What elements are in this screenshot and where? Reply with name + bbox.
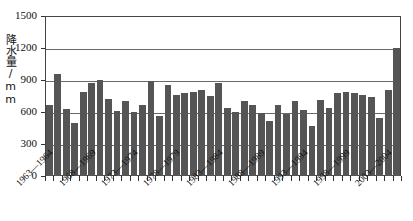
bar — [173, 95, 180, 176]
bar — [258, 113, 265, 176]
y-tick-label-900: 900 — [0, 74, 37, 85]
bar — [266, 121, 273, 176]
bar — [97, 80, 104, 176]
bar — [300, 110, 307, 176]
bar — [105, 99, 112, 176]
bar — [317, 100, 324, 176]
bar — [131, 112, 138, 176]
bar — [46, 105, 53, 176]
bar — [63, 109, 70, 176]
bar — [393, 48, 400, 176]
y-tick-label-600: 600 — [0, 106, 37, 117]
y-axis-ticks: 030060090012001500 — [0, 0, 45, 177]
y-tick-label-1200: 1200 — [0, 42, 37, 53]
y-tick-label-1500: 1500 — [0, 10, 37, 21]
bar — [224, 108, 231, 176]
bar — [343, 92, 350, 176]
bar — [181, 93, 188, 176]
bar — [351, 93, 358, 176]
bar — [359, 95, 366, 176]
bar — [148, 81, 155, 176]
bar — [275, 105, 282, 176]
bar — [309, 126, 316, 176]
figure-caption-partial — [50, 215, 380, 221]
precipitation-bar-chart: 降水量/mm 030060090012001500 1963—19641968—… — [0, 0, 413, 221]
y-tick-label-300: 300 — [0, 138, 37, 149]
bar — [385, 90, 392, 176]
bar — [54, 74, 61, 176]
bar — [232, 112, 239, 176]
bar — [139, 105, 146, 176]
bar — [190, 92, 197, 176]
